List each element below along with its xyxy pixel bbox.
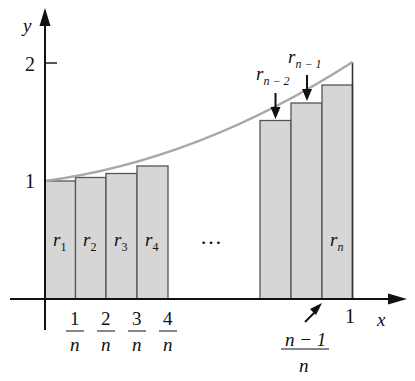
svg-text:n: n xyxy=(70,334,80,355)
riemann-sum-diagram: y x 2 1 1 r1 r2 r3 r4 rn … rn − 2 rn − 1… xyxy=(0,0,415,381)
fraction-1-over-n: 1 n xyxy=(66,308,84,355)
rect-rn xyxy=(322,85,353,299)
svg-text:n: n xyxy=(299,355,309,376)
arrow-label-rn-1: rn − 1 xyxy=(288,46,322,71)
svg-text:2: 2 xyxy=(101,308,111,329)
svg-text:n: n xyxy=(163,334,173,355)
fraction-4-over-n: 4 n xyxy=(159,308,177,355)
svg-text:3: 3 xyxy=(132,308,142,329)
rect-rn-2 xyxy=(260,121,291,300)
arrow-label-rn-2: rn − 2 xyxy=(256,63,290,88)
ellipsis: … xyxy=(200,224,222,249)
diagonal-arrow-n-minus-1 xyxy=(305,303,322,322)
y-tick-label-2: 2 xyxy=(25,53,35,75)
rect-r4 xyxy=(137,166,168,299)
y-axis-arrowhead xyxy=(40,8,51,26)
rect-r3 xyxy=(106,174,137,300)
y-axis-label: y xyxy=(21,15,32,36)
svg-text:n − 1: n − 1 xyxy=(285,329,326,350)
svg-text:4: 4 xyxy=(163,308,173,329)
y-tick-label-1: 1 xyxy=(25,170,35,192)
right-rectangles xyxy=(260,85,353,299)
x-end-label-1: 1 xyxy=(345,305,355,327)
fraction-2-over-n: 2 n xyxy=(97,308,115,355)
fraction-n-minus-1-over-n: n − 1 n xyxy=(281,329,329,376)
x-axis-label: x xyxy=(376,309,386,330)
x-axis-arrowhead xyxy=(388,294,407,305)
rect-rn-1 xyxy=(291,103,322,299)
svg-text:n: n xyxy=(132,334,142,355)
svg-text:1: 1 xyxy=(70,308,80,329)
x-fraction-labels: 1 n 2 n 3 n 4 n xyxy=(66,308,177,355)
fraction-3-over-n: 3 n xyxy=(128,308,146,355)
svg-text:n: n xyxy=(101,334,111,355)
rect-r2 xyxy=(76,178,107,300)
